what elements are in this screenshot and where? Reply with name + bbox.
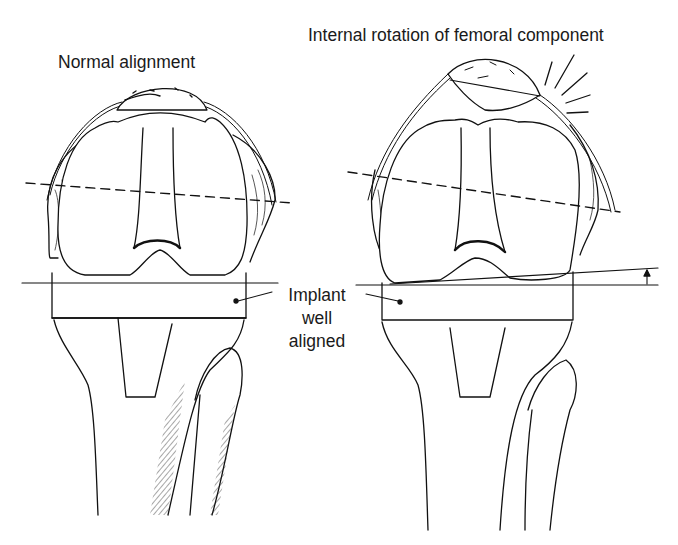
panel-title-normal-alignment: Normal alignment (58, 52, 195, 73)
knee-diagram-artwork (0, 0, 678, 545)
right-knee-drawing (348, 55, 658, 530)
right-tibia (382, 322, 428, 530)
annotation-line-2: well (262, 307, 372, 330)
right-patella (448, 60, 540, 111)
left-tibial-tray (52, 273, 246, 318)
left-patella (117, 89, 207, 110)
left-femoral-component (58, 113, 247, 275)
implant-alignment-annotation: Implant well aligned (262, 284, 372, 353)
annotation-line-1: Implant (262, 284, 372, 307)
left-tibia (54, 320, 98, 515)
annotation-line-3: aligned (262, 330, 372, 353)
right-fibula (528, 360, 576, 530)
left-knee-drawing (22, 88, 292, 515)
angle-arrow-icon (644, 270, 650, 276)
panel-title-internal-rotation: Internal rotation of femoral component (308, 25, 604, 46)
